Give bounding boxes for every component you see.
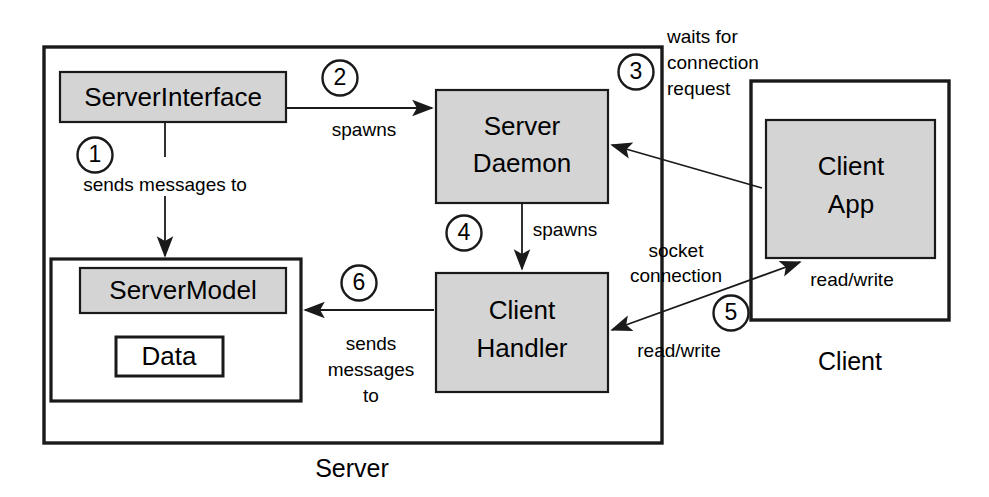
client-app-label-line1: Client <box>818 151 885 181</box>
step-5-label-line1: socket <box>649 240 705 261</box>
step-4-number: 4 <box>458 219 471 245</box>
step-1-label: sends messages to <box>83 174 247 195</box>
step-6-number: 6 <box>353 269 366 295</box>
step-6-label-line2: messages <box>328 359 415 380</box>
server-daemon-label-line2: Daemon <box>473 148 571 178</box>
step-3-label-line2: connection <box>667 52 759 73</box>
data-label: Data <box>142 341 197 371</box>
step-5-label-line2: connection <box>630 265 722 286</box>
read-write-client-label: read/write <box>810 269 893 290</box>
server-model-label: ServerModel <box>109 275 256 305</box>
server-container-label: Server <box>315 454 389 482</box>
client-app-label-line2: App <box>828 189 874 219</box>
step-1-number: 1 <box>89 141 102 167</box>
step-3-number: 3 <box>630 58 643 84</box>
step-2-label: spawns <box>332 119 396 140</box>
step-2-number: 2 <box>334 64 347 90</box>
client-handler-label-line2: Handler <box>476 333 567 363</box>
step-6-label-line3: to <box>363 385 379 406</box>
step-5-number: 5 <box>725 299 738 325</box>
client-container-label: Client <box>818 347 882 375</box>
server-daemon-label-line1: Server <box>484 111 561 141</box>
step-3-label-line3: request <box>667 78 731 99</box>
server-interface-label: ServerInterface <box>84 82 262 112</box>
diagram-canvas: Server Client ServerInterface ServerMode… <box>0 0 989 497</box>
step-3-label-line1: waits for <box>666 26 738 47</box>
step-4-label: spawns <box>533 219 597 240</box>
server-daemon-box <box>436 90 608 203</box>
architecture-diagram: Server Client ServerInterface ServerMode… <box>0 0 989 497</box>
step-6-label-line1: sends <box>346 333 397 354</box>
read-write-handler-label: read/write <box>637 340 720 361</box>
client-handler-label-line1: Client <box>489 295 556 325</box>
